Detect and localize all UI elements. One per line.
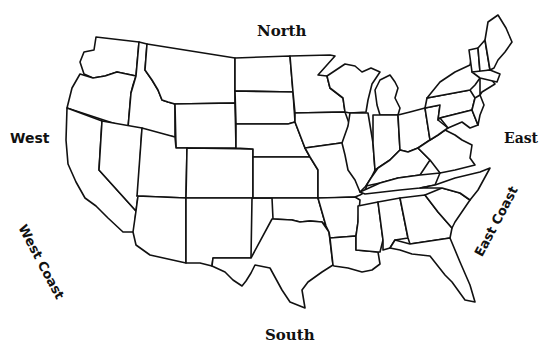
label-west: West xyxy=(10,130,49,146)
state-mi xyxy=(375,75,400,115)
label-north: North xyxy=(257,22,306,40)
state-wa xyxy=(80,37,139,78)
state-co xyxy=(186,148,253,198)
us-map xyxy=(0,0,548,356)
label-south: South xyxy=(265,326,315,344)
state-wy xyxy=(175,103,236,148)
state-fl xyxy=(390,238,475,302)
label-east: East xyxy=(504,130,538,146)
state-ks xyxy=(253,157,318,198)
state-nd xyxy=(235,56,293,92)
state-me xyxy=(485,15,512,70)
state-az xyxy=(133,196,186,263)
state-nm xyxy=(186,198,252,266)
state-sd xyxy=(235,91,295,124)
